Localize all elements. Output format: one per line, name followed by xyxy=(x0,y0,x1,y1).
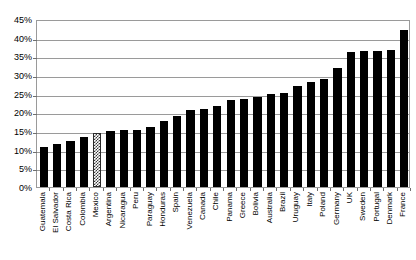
bar xyxy=(253,97,261,187)
x-axis-tick-mark xyxy=(170,188,171,191)
y-axis-tick-label: 0% xyxy=(0,184,32,193)
x-axis-category-label: Chile xyxy=(212,192,220,210)
x-axis-category-label: Canada xyxy=(199,192,207,220)
bar xyxy=(53,144,61,187)
x-axis-tick-mark xyxy=(63,188,64,191)
x-axis-tick-mark xyxy=(370,188,371,191)
x-axis-category-label: Guatemala xyxy=(39,192,47,231)
x-axis-tick-mark xyxy=(156,188,157,191)
bar xyxy=(40,147,48,187)
x-axis-category-label: El Salvador xyxy=(52,192,60,233)
x-axis-tick-mark xyxy=(76,188,77,191)
x-axis-tick-mark xyxy=(357,188,358,191)
x-axis-tick-mark xyxy=(236,188,237,191)
bar xyxy=(186,110,194,187)
x-axis-category-label: Sweden xyxy=(359,192,367,221)
bar xyxy=(160,121,168,187)
x-axis-tick-mark xyxy=(290,188,291,191)
bar xyxy=(227,100,235,187)
bar xyxy=(213,106,221,187)
x-axis-category-label: Denmark xyxy=(386,192,394,224)
bar xyxy=(173,116,181,187)
bar xyxy=(307,82,315,187)
y-axis-tick-label: 20% xyxy=(0,109,32,118)
y-axis-tick-label: 30% xyxy=(0,72,32,81)
bar xyxy=(93,133,101,187)
bars-group xyxy=(37,21,409,187)
bar xyxy=(280,93,288,187)
x-axis-category-label: Panama xyxy=(226,192,234,222)
x-axis-category-label: Poland xyxy=(319,192,327,217)
x-axis-category-label: Uruguay xyxy=(292,192,300,222)
x-axis-tick-mark xyxy=(196,188,197,191)
y-axis-tick-label: 40% xyxy=(0,34,32,43)
x-axis-category-label: Greece xyxy=(239,192,247,218)
x-axis-tick-mark xyxy=(317,188,318,191)
x-axis-category-label: Spain xyxy=(172,192,180,212)
bar xyxy=(200,109,208,187)
x-axis-tick-mark xyxy=(330,188,331,191)
bar xyxy=(347,52,355,187)
x-axis-tick-mark xyxy=(49,188,50,191)
plot-area xyxy=(36,20,410,188)
x-axis-category-label: Honduras xyxy=(159,192,167,227)
x-axis-category-label: Venezuela xyxy=(186,192,194,229)
bar xyxy=(387,50,395,187)
bar xyxy=(400,30,408,187)
bar xyxy=(320,79,328,187)
x-axis-category-label: Germany xyxy=(333,192,341,225)
x-axis-tick-mark xyxy=(303,188,304,191)
x-axis-category-label: Brazil xyxy=(279,192,287,212)
x-axis-category-label: UK xyxy=(346,192,354,203)
x-axis: GuatemalaEl SalvadorCosta RicaColombiaMe… xyxy=(36,192,410,260)
x-axis-tick-mark xyxy=(89,188,90,191)
x-axis-tick-mark xyxy=(383,188,384,191)
y-axis-tick-label: 25% xyxy=(0,90,32,99)
bar xyxy=(66,141,74,187)
x-axis-category-label: Mexico xyxy=(92,192,100,217)
x-axis-tick-mark xyxy=(183,188,184,191)
x-axis-category-label: Nicaragua xyxy=(119,192,127,228)
x-axis-tick-mark xyxy=(223,188,224,191)
bar xyxy=(240,99,248,187)
bar xyxy=(80,137,88,187)
x-axis-category-label: Colombia xyxy=(79,192,87,226)
x-axis-category-label: Australia xyxy=(266,192,274,223)
y-axis-tick-label: 15% xyxy=(0,128,32,137)
bar xyxy=(146,127,154,187)
x-axis-tick-mark xyxy=(130,188,131,191)
x-axis-tick-mark xyxy=(343,188,344,191)
bar xyxy=(360,51,368,187)
x-axis-tick-mark xyxy=(116,188,117,191)
x-axis-category-label: France xyxy=(399,192,407,217)
bar xyxy=(267,94,275,187)
y-axis-tick-label: 10% xyxy=(0,146,32,155)
x-axis-category-label: Argentina xyxy=(105,192,113,226)
x-axis-category-label: Bolivia xyxy=(252,192,260,216)
x-axis-category-label: Portugal xyxy=(373,192,381,222)
y-axis-tick-label: 35% xyxy=(0,53,32,62)
bar xyxy=(333,68,341,187)
x-axis-tick-mark xyxy=(103,188,104,191)
x-axis-category-label: Costa Rica xyxy=(65,192,73,231)
x-axis-category-label: Paraguay xyxy=(146,192,154,226)
x-axis-tick-mark xyxy=(276,188,277,191)
x-axis-tick-mark xyxy=(263,188,264,191)
y-axis: 0%5%10%15%20%25%30%35%40%45% xyxy=(0,0,32,260)
bar xyxy=(106,131,114,187)
x-axis-category-label: Italy xyxy=(306,192,314,207)
bar xyxy=(133,130,141,187)
x-axis-tick-mark xyxy=(397,188,398,191)
y-axis-tick-label: 5% xyxy=(0,165,32,174)
bar-chart: 0%5%10%15%20%25%30%35%40%45% GuatemalaEl… xyxy=(0,0,416,260)
bar xyxy=(120,130,128,187)
x-axis-tick-mark xyxy=(143,188,144,191)
x-axis-tick-mark xyxy=(250,188,251,191)
y-axis-tick-label: 45% xyxy=(0,16,32,25)
bar xyxy=(373,51,381,187)
x-axis-tick-mark xyxy=(210,188,211,191)
bar xyxy=(293,86,301,187)
x-axis-tick-mark xyxy=(410,188,411,191)
x-axis-category-label: Peru xyxy=(132,192,140,209)
